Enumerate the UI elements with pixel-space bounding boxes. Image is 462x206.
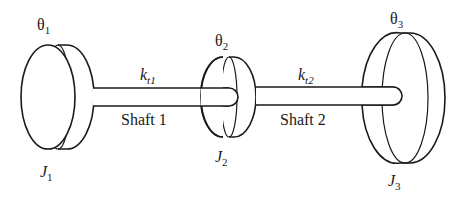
- disk-1: [21, 45, 94, 149]
- theta-3-label: θ3: [390, 10, 404, 30]
- j-2-label: J2: [215, 148, 228, 168]
- j-3-label: J3: [388, 172, 401, 192]
- disk-2: [201, 57, 256, 137]
- shaft-1-name: Shaft 1: [121, 111, 167, 128]
- j-1-label: J1: [40, 163, 53, 183]
- torsional-system-diagram: θ1 J1 θ2 J2 θ3 J3 kt1 kt2 Shaft 1 Shaft …: [0, 0, 462, 206]
- diagram-svg: θ1 J1 θ2 J2 θ3 J3 kt1 kt2 Shaft 1 Shaft …: [0, 0, 462, 206]
- shaft-2-name: Shaft 2: [280, 111, 326, 128]
- disk-3: [362, 33, 445, 164]
- k-t2-label: kt2: [298, 66, 314, 86]
- theta-2-label: θ2: [215, 32, 228, 52]
- k-t1-label: kt1: [140, 66, 156, 86]
- theta-1-label: θ1: [37, 16, 50, 36]
